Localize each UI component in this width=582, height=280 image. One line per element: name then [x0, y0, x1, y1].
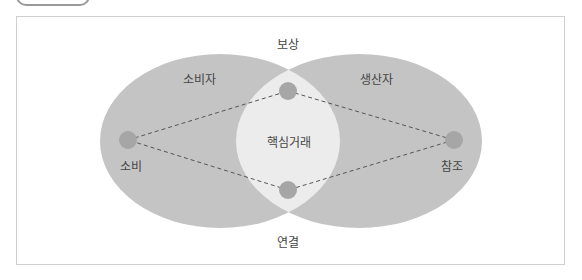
- node-left: [119, 131, 137, 149]
- node-right: [445, 131, 463, 149]
- node-bottom: [279, 181, 297, 199]
- label-consumer: 소비자: [183, 70, 216, 87]
- label-connection: 연결: [277, 233, 299, 250]
- label-consume: 소비: [120, 157, 142, 174]
- node-top: [279, 82, 297, 100]
- label-core-transaction: 핵심거래: [267, 133, 311, 150]
- label-reward: 보상: [277, 35, 299, 52]
- label-reference: 참조: [441, 157, 463, 174]
- label-producer: 생산자: [360, 70, 393, 87]
